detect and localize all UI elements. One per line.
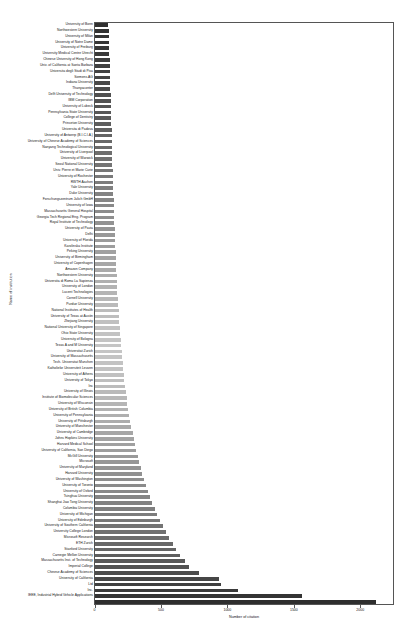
bar-category-label: Universita degli Studi di Pisa: [50, 70, 93, 74]
bar: [95, 186, 114, 190]
bar-row: University of Texas at Austin: [0, 315, 401, 319]
bar: [95, 385, 126, 389]
bar-row: Nanyang Technological University: [0, 146, 401, 150]
bar: [95, 70, 110, 74]
bar: [95, 297, 118, 301]
bar-row: University of Lubeck: [0, 105, 401, 109]
bar: [95, 524, 163, 528]
bar-category-label: Amazon Company: [65, 268, 93, 272]
bar-row: University of Chinese Academy of Science…: [0, 140, 401, 144]
bar: [95, 332, 121, 336]
bar: [95, 122, 112, 126]
bar-category-label: Indiana University: [66, 81, 93, 85]
bar-category-label: University of Freiburg: [61, 46, 93, 50]
bar-category-label: Microsoft: [79, 460, 93, 464]
bar-category-label: University of Michigan: [60, 513, 93, 517]
bar-category-label: Institute of Biomolecular Sciences: [42, 396, 93, 400]
bar-category-label: Microsoft Research: [64, 536, 93, 540]
bar-row: Massachusetts General Hospital: [0, 210, 401, 214]
bar: [95, 600, 377, 604]
bar-row: Microsoft: [0, 460, 401, 464]
x-tick-label: 1500: [290, 608, 298, 612]
bar-row: University of Notre Dame: [0, 41, 401, 45]
bar: [95, 163, 113, 167]
bar-row: Peking University: [0, 250, 401, 254]
bar: [95, 414, 130, 418]
bar-category-label: University of Oxford: [63, 490, 93, 494]
bar-row: University of Southern California: [0, 524, 401, 528]
bar-category-label: Ohio State University: [61, 332, 93, 336]
bar-category-label: University of Warwick: [61, 157, 93, 161]
x-tick-mark: [227, 605, 228, 608]
bar-category-label: Harvard University: [65, 472, 93, 476]
bar-category-label: Thanyaconter: [72, 87, 93, 91]
bar: [95, 320, 120, 324]
bar-category-label: ETH Zurich: [76, 542, 93, 546]
bar-row: IEEE, Industrial Hybrid Vehicle Applicat…: [0, 594, 401, 598]
bar-row: Delft University of Technology: [0, 93, 401, 97]
bar-row: Tsinghua University: [0, 495, 401, 499]
bar: [95, 326, 120, 330]
bar-category-label: University of Chinese Academy of Science…: [28, 140, 93, 144]
bar-category-label: University of Lubeck: [62, 105, 93, 109]
bar-category-label: Shanghai Jiao Tong University: [48, 501, 94, 505]
bar-category-label: IBM Corporation: [68, 99, 93, 103]
bar: [95, 478, 145, 482]
bar-category-label: RWTH Aachen: [71, 181, 93, 185]
bar-row: Microsoft Research: [0, 536, 401, 540]
bar-row: Massachusetts Inst. of Technology: [0, 559, 401, 563]
bar-row: Seoul National University: [0, 163, 401, 167]
bar-row: Universitat Zurich: [0, 350, 401, 354]
bar-category-label: Univ. of California at Santa Barbara: [40, 64, 93, 68]
bar: [95, 554, 181, 558]
bar: [95, 519, 160, 523]
bar-category-label: University of Iowa: [66, 204, 93, 208]
bar: [95, 245, 116, 249]
bar: [95, 280, 117, 284]
bar: [95, 495, 151, 499]
bar-category-label: McGill University: [68, 455, 93, 459]
bar-category-label: Nanyang Technological University: [42, 146, 93, 150]
bar: [95, 396, 127, 400]
bar-category-label: University of Illinois: [64, 390, 93, 394]
bar: [95, 105, 111, 109]
bar-category-label: Karolinska Institute: [64, 245, 93, 249]
bar: [95, 64, 110, 68]
bar-row: University of Athens: [0, 373, 401, 377]
x-tick-mark: [161, 605, 162, 608]
bar-row: Institute of Biomolecular Sciences: [0, 396, 401, 400]
bar-category-label: Princeton University: [63, 122, 93, 126]
bar-row: University of Copenhagen: [0, 262, 401, 266]
bar-category-label: Lucent Technologies: [62, 291, 93, 295]
bar: [95, 315, 119, 319]
bar: [95, 181, 113, 185]
bar-category-label: Cornell University: [66, 297, 93, 301]
bar-row: Inc: [0, 385, 401, 389]
bar-row: University of Antwerp (B.I.C.I.A.): [0, 134, 401, 138]
bar-row: ETH Zurich: [0, 542, 401, 546]
bar: [95, 408, 129, 412]
bar-category-label: Columbia University: [63, 507, 93, 511]
bar-row: Texas A and M University: [0, 344, 401, 348]
bar-category-label: Massachusetts General Hospital: [44, 210, 93, 214]
bar-category-label: University of Massachusetts: [51, 355, 93, 359]
bar: [95, 344, 122, 348]
bar-category-label: University College London: [53, 530, 93, 534]
bar-category-label: University of Wisconsin: [58, 402, 93, 406]
bar-row: Universita di Padova: [0, 128, 401, 132]
bar-row: McGill University: [0, 455, 401, 459]
bar: [95, 589, 239, 593]
bar-row: University of London: [0, 285, 401, 289]
bar-category-label: University of Maryland: [59, 466, 93, 470]
bar: [95, 542, 173, 546]
bar-row: University of Iowa: [0, 204, 401, 208]
bar: [95, 565, 190, 569]
bar-category-label: University of Washington: [56, 478, 93, 482]
bar-row: University of Michigan: [0, 513, 401, 517]
bar: [95, 437, 134, 441]
bar: [95, 501, 153, 505]
bar-row: University of California: [0, 577, 401, 581]
bar-row: Shanghai Jiao Tong University: [0, 501, 401, 505]
bar: [95, 449, 137, 453]
bar-row: Royal Institute of Technology: [0, 221, 401, 225]
